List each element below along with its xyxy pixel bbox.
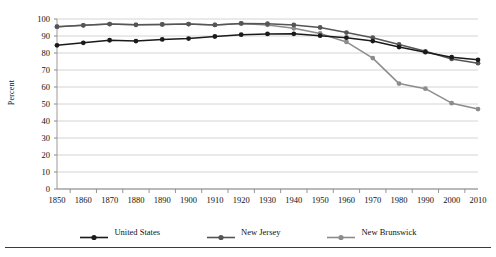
data-point-marker	[291, 23, 296, 28]
data-point-marker	[55, 24, 60, 29]
data-point-marker	[318, 25, 323, 30]
y-tick-label: 60	[24, 83, 50, 92]
data-point-marker	[81, 23, 86, 28]
data-point-marker	[449, 101, 454, 106]
y-tick-label: 80	[24, 49, 50, 58]
data-point-marker	[186, 22, 191, 27]
data-point-marker	[423, 86, 428, 91]
plot-area: 0102030405060708090100 18501860187018801…	[0, 0, 496, 210]
y-tick-label: 10	[24, 168, 50, 177]
legend-marker-icon	[326, 228, 356, 237]
y-tick-label: 70	[24, 66, 50, 75]
data-point-marker	[55, 43, 60, 48]
line-chart-svg	[0, 0, 496, 210]
chart-figure: Percent 0102030405060708090100 185018601…	[0, 0, 496, 257]
data-point-marker	[476, 107, 481, 112]
data-point-marker	[160, 37, 165, 42]
data-point-marker	[81, 40, 86, 45]
data-point-marker	[212, 23, 217, 28]
data-point-marker	[134, 22, 139, 27]
y-tick-label: 30	[24, 134, 50, 143]
data-point-marker	[239, 32, 244, 37]
data-point-marker	[265, 21, 270, 26]
data-point-marker	[344, 40, 349, 45]
y-tick-label: 50	[24, 100, 50, 109]
data-point-marker	[423, 50, 428, 55]
data-point-marker	[239, 21, 244, 26]
y-tick-label: 0	[24, 185, 50, 194]
data-point-marker	[344, 35, 349, 40]
series-line	[57, 34, 478, 60]
data-point-marker	[265, 32, 270, 37]
data-point-marker	[291, 31, 296, 36]
data-point-marker	[370, 39, 375, 44]
legend-label: New Brunswick	[361, 227, 416, 237]
legend-marker-icon	[206, 228, 236, 237]
series-line	[57, 23, 478, 63]
data-point-marker	[186, 36, 191, 41]
y-tick-label: 40	[24, 117, 50, 126]
y-tick-label: 20	[24, 151, 50, 160]
bottom-divider	[5, 247, 491, 248]
y-tick-label: 90	[24, 32, 50, 41]
data-point-marker	[107, 22, 112, 27]
x-tick-label: 2010	[458, 196, 496, 205]
legend-item[interactable]: United States	[79, 227, 160, 237]
data-point-marker	[476, 57, 481, 62]
legend-label: United States	[114, 227, 160, 237]
legend-label: New Jersey	[241, 227, 280, 237]
legend-item[interactable]: New Jersey	[206, 227, 280, 237]
data-point-marker	[449, 55, 454, 60]
chart-legend: United StatesNew JerseyNew Brunswick	[0, 224, 496, 240]
data-point-marker	[370, 56, 375, 61]
data-point-marker	[397, 45, 402, 50]
data-point-marker	[397, 81, 402, 86]
legend-item[interactable]: New Brunswick	[326, 227, 416, 237]
data-point-marker	[318, 33, 323, 38]
data-point-marker	[212, 34, 217, 39]
legend-marker-icon	[79, 228, 109, 237]
data-point-marker	[134, 39, 139, 44]
y-tick-label: 100	[24, 15, 50, 24]
data-point-marker	[107, 38, 112, 43]
data-point-marker	[344, 30, 349, 35]
data-point-marker	[160, 22, 165, 27]
